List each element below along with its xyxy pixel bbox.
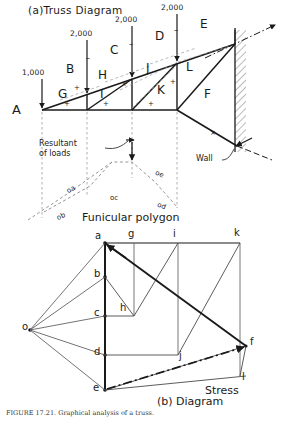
truss-space-a: A xyxy=(12,103,21,116)
sign-plus-4: + xyxy=(122,80,128,88)
stress-point-label-e: e xyxy=(93,383,99,393)
figure-caption: FIGURE 17.21. Graphical analysis of a tr… xyxy=(6,409,286,423)
stress-point-label-o: o xyxy=(22,322,28,332)
funicular-drop-lines xyxy=(42,112,177,218)
truss-space-c: C xyxy=(110,44,118,56)
figure-container: (a)Truss Diagram 1,000 2,000 2,000 2,000… xyxy=(0,0,286,423)
load-label-2: 2,000 xyxy=(70,30,92,38)
stress-point-label-g: g xyxy=(128,229,134,239)
truss-lower-right-member xyxy=(177,110,237,146)
load-label-1: 1,000 xyxy=(22,69,44,77)
stress-point-label-h: h xyxy=(120,303,126,313)
stress-point-label-k: k xyxy=(234,228,240,238)
sign-plus-5: + xyxy=(148,100,154,108)
sign-plus-3: + xyxy=(103,100,109,108)
stress-verticals xyxy=(134,243,240,376)
wall-leader xyxy=(222,149,234,160)
sign-plus-1: + xyxy=(74,84,80,92)
sign-plus-2: + xyxy=(64,100,70,108)
truss-space-j: J xyxy=(146,62,150,74)
sign-minus-1: – xyxy=(86,54,90,63)
stress-point-label-a: a xyxy=(95,231,101,241)
truss-space-g: G xyxy=(58,88,67,100)
resultant-label-line2: of loads xyxy=(39,150,71,158)
sign-plus-6: + xyxy=(170,78,176,86)
resultant-leader xyxy=(105,141,128,149)
stress-point-label-d: d xyxy=(94,347,100,357)
stress-point-label-i: i xyxy=(173,229,176,239)
resultant-label-line1: Resultant xyxy=(39,140,77,148)
wall-hatching xyxy=(235,28,246,152)
stress-diagram-title-line2: (b) Diagram xyxy=(157,396,223,407)
stress-point-f xyxy=(244,344,247,347)
stress-point-label-l: l xyxy=(242,372,245,382)
stress-point-label-j: j xyxy=(179,351,182,361)
stress-point-label-c: c xyxy=(94,308,100,318)
reaction-ray-lower xyxy=(237,146,272,160)
load-label-4: 2,000 xyxy=(161,4,183,12)
stress-point-label-b: b xyxy=(94,269,100,279)
stress-heavy-diagonal xyxy=(105,243,246,346)
sign-minus-3: – xyxy=(174,26,178,35)
load-label-3: 2,000 xyxy=(115,16,137,24)
wall-label: Wall xyxy=(196,155,213,163)
sign-mark-x: × xyxy=(210,129,216,137)
truss-space-k: K xyxy=(157,84,165,96)
truss-space-h: H xyxy=(98,69,107,81)
sign-minus-2: – xyxy=(129,40,133,49)
ray-label-oc: oc xyxy=(110,195,118,202)
truss-space-f: F xyxy=(204,88,211,100)
truss-diagram-title: (a)Truss Diagram xyxy=(28,5,123,16)
stress-point-label-f: f xyxy=(250,337,254,347)
truss-space-b: B xyxy=(66,63,74,75)
truss-space-l: L xyxy=(186,61,193,73)
funicular-polygon-label: Funicular polygon xyxy=(82,212,180,223)
truss-space-d: D xyxy=(155,30,164,42)
stress-arrow-a xyxy=(107,245,126,258)
truss-space-e: E xyxy=(200,18,208,30)
truss-space-i: I xyxy=(100,88,104,100)
